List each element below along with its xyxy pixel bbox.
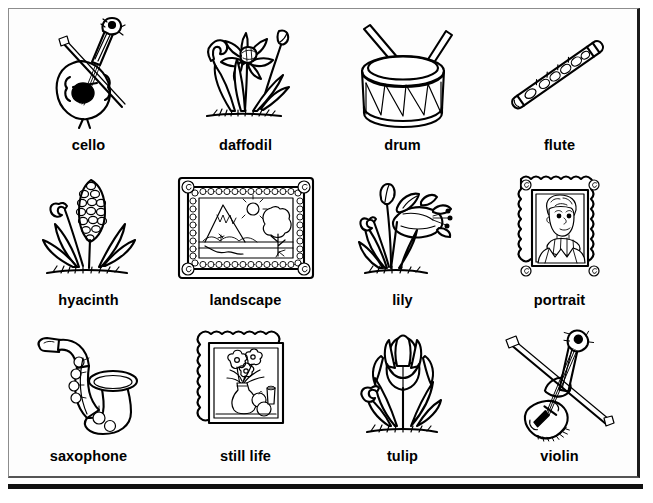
portrait-illustration-cell[interactable]: portrait <box>481 165 638 320</box>
grid-cell-daffodil[interactable]: daffodil <box>167 10 324 165</box>
caption-lily: lily <box>392 293 413 308</box>
caption-cello: cello <box>72 138 106 153</box>
picture-vocabulary-page: cello <box>0 0 653 503</box>
grid-cell-cello[interactable]: cello <box>10 10 167 165</box>
grid-cell-violin[interactable]: violin <box>481 321 638 476</box>
bottom-rule-bar <box>8 484 643 489</box>
caption-saxophone: saxophone <box>50 449 127 464</box>
caption-tulip: tulip <box>387 449 418 464</box>
violin-illustration <box>481 325 638 443</box>
grid-cell-still-life[interactable]: still life <box>167 321 324 476</box>
caption-portrait: portrait <box>534 293 586 308</box>
caption-drum: drum <box>384 138 421 153</box>
caption-still-life: still life <box>220 449 271 464</box>
portrait-illustration <box>481 169 638 287</box>
caption-violin: violin <box>540 449 578 464</box>
still-life-illustration <box>167 325 324 443</box>
lily-illustration <box>324 169 481 287</box>
picture-grid: cello <box>10 10 638 476</box>
landscape-illustration <box>167 169 324 287</box>
drum-illustration <box>324 14 481 132</box>
grid-cell-flute[interactable]: flute <box>481 10 638 165</box>
caption-daffodil: daffodil <box>219 138 272 153</box>
grid-cell-lily[interactable]: lily <box>324 165 481 320</box>
caption-flute: flute <box>544 138 575 153</box>
grid-cell-tulip[interactable]: tulip <box>324 321 481 476</box>
grid-cell-hyacinth[interactable]: hyacinth <box>10 165 167 320</box>
grid-cell-landscape[interactable]: landscape <box>167 165 324 320</box>
hyacinth-illustration <box>10 169 167 287</box>
grid-cell-drum[interactable]: drum <box>324 10 481 165</box>
caption-landscape: landscape <box>210 293 282 308</box>
flute-illustration <box>481 14 638 132</box>
cello-illustration <box>10 14 167 132</box>
tulip-illustration <box>324 325 481 443</box>
caption-hyacinth: hyacinth <box>58 293 118 308</box>
saxophone-illustration <box>10 325 167 443</box>
grid-cell-saxophone[interactable]: saxophone <box>10 321 167 476</box>
daffodil-illustration <box>167 14 324 132</box>
